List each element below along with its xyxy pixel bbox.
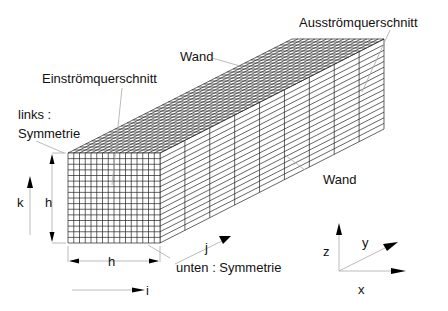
dim-width-label: h	[108, 254, 115, 269]
label-left-boundary: links :	[18, 107, 51, 122]
index-j-label: j	[205, 240, 208, 255]
label-outlet: Ausströmquerschnitt	[299, 15, 418, 30]
label-left-symmetry: Symmetrie	[18, 126, 80, 141]
channel-grid-diagram: Ausströmquerschnitt Wand Einströmquersch…	[0, 0, 448, 311]
index-i-label: i	[146, 283, 149, 298]
axis-y-label: y	[362, 235, 369, 250]
label-wall-side: Wand	[323, 172, 356, 187]
dim-height-label: h	[45, 195, 52, 210]
axis-z-label: z	[323, 244, 330, 259]
label-bottom-symmetry: unten : Symmetrie	[176, 260, 282, 275]
axis-x-label: x	[358, 282, 365, 297]
label-wall-top: Wand	[180, 49, 213, 64]
index-k-label: k	[17, 195, 24, 210]
label-inlet: Einströmquerschnitt	[42, 71, 157, 86]
